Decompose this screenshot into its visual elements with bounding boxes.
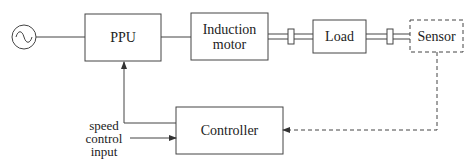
motor-label-line2: motor: [191, 37, 268, 52]
ppu-label: PPU: [85, 30, 161, 45]
sensor-label: Sensor: [410, 29, 463, 44]
motor-label-line1: Induction: [191, 22, 268, 37]
speed-input-label: speed control input: [80, 119, 128, 158]
controller-label: Controller: [176, 123, 283, 138]
input-label-line3: input: [80, 145, 128, 158]
coupling-icon: [387, 29, 393, 44]
block-diagram: PPU Induction motor Load Sensor Controll…: [0, 0, 473, 166]
load-label: Load: [313, 29, 366, 44]
coupling-icon: [288, 29, 294, 44]
